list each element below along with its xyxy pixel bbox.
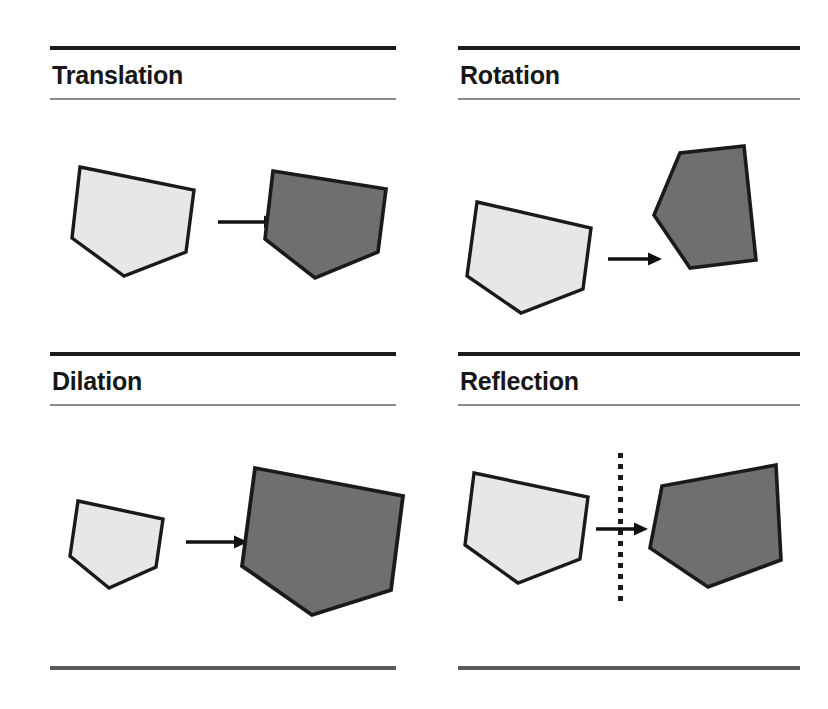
figure-dilation — [64, 458, 410, 638]
reflection-diagram — [456, 456, 800, 616]
panel-footer-rule-reflection — [458, 668, 800, 670]
header-rule-thin — [458, 98, 800, 100]
panel-footer-rule-dilation — [50, 668, 396, 670]
shape-preimage-light — [72, 167, 194, 276]
figure-translation — [64, 150, 394, 300]
panel-title-translation: Translation — [52, 60, 183, 90]
header-rule-thick — [50, 352, 396, 356]
shape-image-dark-enlarged — [242, 468, 403, 615]
shape-preimage-light — [467, 202, 591, 313]
dilation-diagram — [64, 458, 410, 638]
header-rule-thick — [50, 46, 396, 50]
transformation-arrow-icon — [186, 536, 248, 549]
header-rule-thin — [458, 404, 800, 406]
panel-title-dilation: Dilation — [52, 366, 142, 396]
shape-image-dark — [265, 171, 386, 278]
panel-title-rotation: Rotation — [460, 60, 560, 90]
shape-image-dark-rotated — [654, 146, 756, 268]
shape-preimage-light-small — [70, 501, 163, 588]
header-rule-thick — [458, 46, 800, 50]
header-rule-thin — [50, 404, 396, 406]
header-rule-thick — [458, 352, 800, 356]
rotation-diagram — [456, 142, 796, 322]
transformations-figure: Translation Rotation — [0, 0, 828, 709]
panel-title-reflection: Reflection — [460, 366, 579, 396]
header-rule-thin — [50, 98, 396, 100]
translation-diagram — [64, 150, 394, 300]
figure-reflection — [456, 456, 800, 616]
figure-rotation — [456, 142, 796, 322]
panel-reflection: Reflection — [458, 352, 800, 668]
transformation-arrow-icon — [596, 523, 648, 536]
shape-preimage-light — [465, 473, 588, 583]
shape-image-dark-mirrored — [650, 465, 781, 587]
panel-dilation: Dilation — [50, 352, 396, 668]
transformation-arrow-icon — [608, 253, 662, 266]
